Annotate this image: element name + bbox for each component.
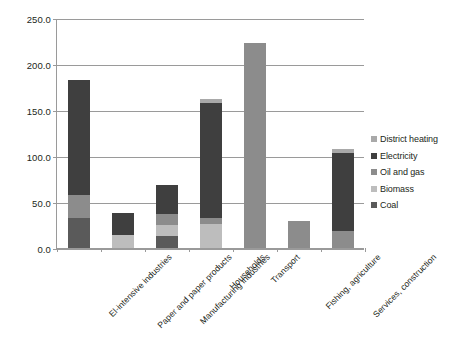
plot-area: 0.050.0100.0150.0200.0250.0 [56, 19, 364, 249]
bar-slot [189, 19, 233, 248]
bar-segment[interactable] [332, 153, 354, 231]
legend-swatch-icon [371, 136, 377, 142]
x-tick-mark [365, 248, 366, 252]
y-axis-tick-label: 100.0 [27, 152, 51, 163]
y-axis-tick-label: 250.0 [27, 14, 51, 25]
bar-segment[interactable] [200, 224, 222, 248]
legend-label: Coal [380, 200, 398, 210]
bar-segment[interactable] [156, 185, 178, 214]
legend-item[interactable]: Biomass [371, 181, 457, 198]
bar-segment[interactable] [156, 225, 178, 236]
x-axis-label: Fishing, agriculture [324, 252, 383, 311]
bar-stack[interactable] [156, 185, 178, 248]
gridline [57, 249, 364, 250]
bar-slot [321, 19, 365, 248]
bar-segment[interactable] [200, 103, 222, 218]
chart-container: 0.050.0100.0150.0200.0250.0 El-intensive… [0, 0, 457, 346]
legend-item[interactable]: District heating [371, 131, 457, 148]
bars-group [57, 19, 364, 248]
bar-stack[interactable] [288, 221, 310, 248]
bar-stack[interactable] [112, 213, 134, 248]
x-axis-label: El-intensive industries [107, 252, 174, 319]
bar-segment[interactable] [288, 221, 310, 248]
legend-item[interactable]: Electricity [371, 148, 457, 165]
x-axis-labels: El-intensive industriesPaper and paper p… [56, 252, 364, 346]
legend-item[interactable]: Coal [371, 197, 457, 214]
legend-swatch-icon [371, 153, 377, 159]
legend-swatch-icon [371, 186, 377, 192]
legend-label: Oil and gas [380, 167, 424, 177]
bar-segment[interactable] [68, 195, 90, 218]
x-axis-label: Services, construction [371, 252, 438, 319]
bar-stack[interactable] [332, 149, 354, 248]
legend-swatch-icon [371, 202, 377, 208]
legend-label: Biomass [380, 184, 414, 194]
bar-segment[interactable] [156, 236, 178, 248]
y-axis-tick-label: 0.0 [37, 244, 51, 255]
bar-segment[interactable] [244, 43, 266, 248]
bar-segment[interactable] [112, 235, 134, 248]
bar-slot [233, 19, 277, 248]
bar-stack[interactable] [200, 99, 222, 248]
bar-stack[interactable] [68, 80, 90, 248]
bar-segment[interactable] [68, 80, 90, 195]
y-axis-tick-label: 50.0 [32, 198, 51, 209]
legend-item[interactable]: Oil and gas [371, 164, 457, 181]
legend-swatch-icon [371, 169, 377, 175]
y-axis-tick-label: 150.0 [27, 106, 51, 117]
bar-slot [57, 19, 101, 248]
bar-segment[interactable] [332, 231, 354, 248]
bar-slot [101, 19, 145, 248]
bar-stack[interactable] [244, 43, 266, 248]
chart-legend: District heatingElectricityOil and gasBi… [371, 131, 457, 214]
legend-label: District heating [380, 134, 438, 144]
x-axis-label: Transport [269, 252, 302, 285]
bar-slot [277, 19, 321, 248]
legend-label: Electricity [380, 151, 417, 161]
bar-segment[interactable] [156, 214, 178, 225]
bar-slot [145, 19, 189, 248]
y-axis-tick-label: 200.0 [27, 60, 51, 71]
bar-segment[interactable] [68, 218, 90, 248]
bar-segment[interactable] [112, 213, 134, 235]
